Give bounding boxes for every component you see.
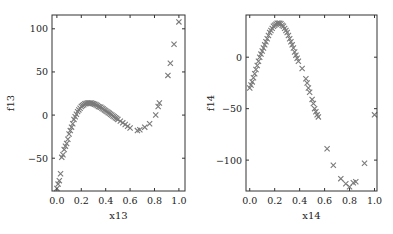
x-tick-label: 0.2 — [267, 195, 282, 206]
y-tick-label: −50 — [222, 103, 242, 114]
data-point — [311, 101, 316, 106]
data-point — [255, 63, 260, 68]
x-tick-label: 0.6 — [317, 195, 332, 206]
data-point — [307, 90, 312, 95]
data-point — [324, 146, 329, 151]
x-tick-label: 0.8 — [147, 195, 162, 206]
x-tick-label: 0.4 — [292, 195, 307, 206]
data-point — [338, 176, 343, 181]
data-point — [65, 137, 70, 142]
y-tick-label: −100 — [216, 155, 242, 166]
y-tick-label: −50 — [28, 153, 48, 164]
data-point — [331, 163, 336, 168]
data-point — [171, 42, 176, 47]
data-points — [54, 19, 181, 191]
data-point — [168, 61, 173, 66]
panel-f14: 0.00.20.40.60.81.0−100−500x14f14 — [205, 15, 382, 221]
data-point — [127, 125, 132, 130]
data-point — [310, 97, 315, 102]
x-tick-label: 1.0 — [171, 195, 186, 206]
data-point — [58, 171, 63, 176]
data-point — [165, 73, 170, 78]
data-point — [153, 112, 158, 117]
x-tick-label: 0.2 — [74, 195, 89, 206]
x-tick-label: 0.0 — [49, 195, 64, 206]
data-point — [303, 76, 308, 81]
y-axis-label: f13 — [5, 95, 16, 111]
y-tick-label: 50 — [36, 66, 48, 77]
data-point — [300, 66, 305, 71]
data-point — [176, 19, 181, 24]
y-tick-label: 0 — [42, 110, 48, 121]
data-point — [253, 67, 258, 72]
data-point — [362, 161, 367, 166]
data-point — [256, 59, 261, 64]
data-point — [251, 75, 256, 80]
x-tick-label: 0.6 — [123, 195, 138, 206]
x-axis-label: x13 — [109, 210, 127, 221]
data-point — [306, 85, 311, 90]
data-point — [142, 125, 147, 130]
y-tick-label: 0 — [236, 52, 242, 63]
y-tick-label: 100 — [30, 23, 48, 34]
data-point — [372, 112, 377, 117]
data-points — [247, 21, 377, 190]
x-tick-label: 0.4 — [98, 195, 113, 206]
x-tick-label: 0.0 — [242, 195, 257, 206]
data-point — [305, 80, 310, 85]
x-tick-label: 0.8 — [342, 195, 357, 206]
x-tick-label: 1.0 — [367, 195, 382, 206]
x-axis-label: x14 — [302, 210, 320, 221]
data-point — [316, 114, 321, 119]
axes-frame — [52, 15, 185, 191]
panel-f13: 0.00.20.40.60.81.0−50050100x13f13 — [5, 15, 186, 221]
figure: 0.00.20.40.60.81.0−50050100x13f13 0.00.2… — [0, 0, 393, 234]
data-point — [252, 71, 257, 76]
y-axis-label: f14 — [205, 95, 216, 111]
data-point — [147, 121, 152, 126]
